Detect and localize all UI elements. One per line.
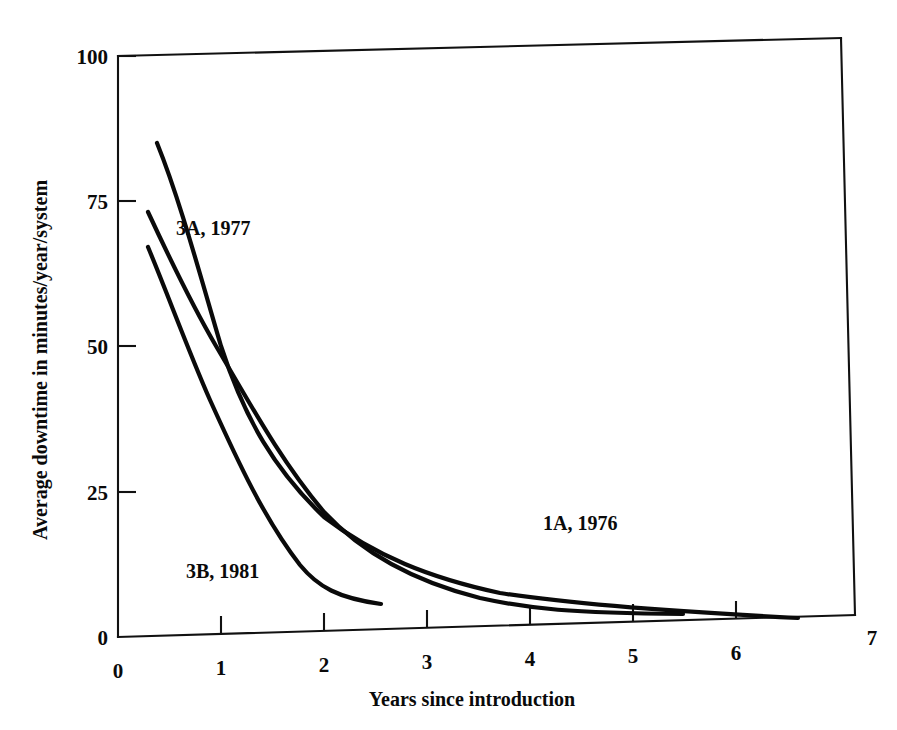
x-tick-label-1: 1 xyxy=(216,656,227,680)
y-tick-label-100: 100 xyxy=(77,45,109,69)
y-tick-label-25: 25 xyxy=(87,481,108,505)
x-tick-label-2: 2 xyxy=(319,653,330,677)
downtime-line-chart: 100 75 50 25 0 0 1 2 3 4 5 6 7 3A, 1977 xyxy=(0,0,897,730)
x-tick-label-5: 5 xyxy=(628,644,639,668)
x-axis-title: Years since introduction xyxy=(369,688,575,710)
y-axis-ticks xyxy=(118,56,136,492)
x-tick-label-6: 6 xyxy=(731,641,742,665)
y-axis-title: Average downtime in minutes/year/system xyxy=(29,180,52,540)
x-tick-label-7: 7 xyxy=(867,626,878,650)
figure-container: 100 75 50 25 0 0 1 2 3 4 5 6 7 3A, 1977 xyxy=(0,0,897,730)
x-axis-ticks xyxy=(221,601,736,634)
x-tick-label-0: 0 xyxy=(113,659,124,683)
data-curves xyxy=(148,143,798,618)
curve-3a-1977 xyxy=(148,212,683,614)
frame-top-border xyxy=(118,38,841,56)
frame-right-border xyxy=(841,38,855,615)
series-label-3b-1981: 3B, 1981 xyxy=(186,560,259,582)
plot-frame xyxy=(118,38,855,637)
x-axis-line xyxy=(118,615,855,637)
series-label-1a-1976: 1A, 1976 xyxy=(543,512,617,534)
x-tick-label-3: 3 xyxy=(422,650,433,674)
y-tick-label-0: 0 xyxy=(98,626,109,650)
y-tick-label-50: 50 xyxy=(87,335,108,359)
y-tick-label-75: 75 xyxy=(87,190,108,214)
x-tick-label-4: 4 xyxy=(525,647,536,671)
series-label-3a-1977: 3A, 1977 xyxy=(176,217,250,239)
curve-1a-1976 xyxy=(157,143,798,618)
